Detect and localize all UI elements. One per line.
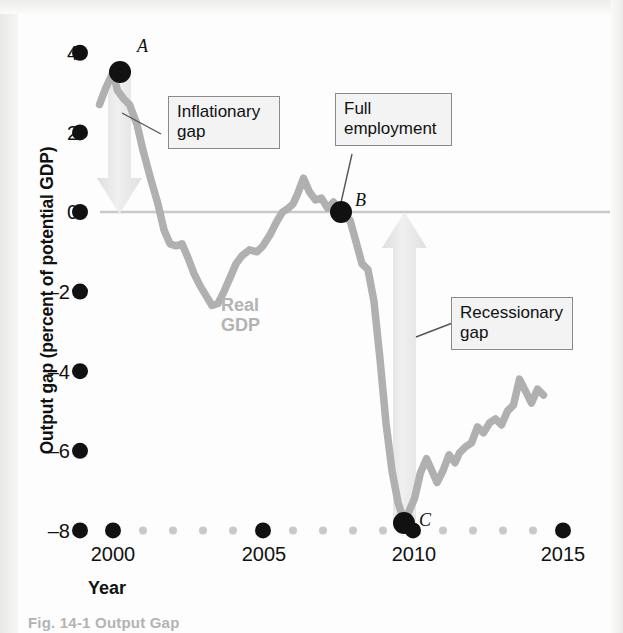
y-tick-dot [72, 443, 88, 459]
callout-full-employment-line2: employment [344, 119, 444, 139]
series-label-line1: Real [221, 295, 260, 315]
y-tick-label-neg8: –8 [30, 520, 70, 543]
callout-inflationary-gap-line1: Inflationary [177, 102, 272, 122]
callout-full-employment[interactable]: Full employment [335, 93, 452, 146]
full-employment-leader-line [340, 154, 352, 207]
x-tick-dot-minor [199, 526, 207, 534]
x-tick-dot-minor [229, 526, 237, 534]
x-tick-dot-major [555, 522, 571, 538]
callout-recessionary-gap-line2: gap [460, 323, 565, 343]
y-tick-label-neg2: –2 [30, 281, 70, 304]
recessionary-gap-leader-line [416, 322, 455, 337]
data-point-c-marker[interactable] [393, 512, 415, 534]
y-tick-dot [72, 284, 88, 300]
data-point-a-marker[interactable] [109, 61, 131, 83]
callout-recessionary-gap-line1: Recessionary [460, 303, 565, 323]
x-tick-dot-minor [439, 526, 447, 534]
data-point-c-label: C [419, 510, 431, 531]
callout-inflationary-gap-line2: gap [177, 122, 272, 142]
x-tick-label-2005: 2005 [224, 543, 304, 566]
x-tick-dot-minor [529, 526, 537, 534]
x-tick-label-2000: 2000 [73, 543, 153, 566]
x-axis-title: Year [88, 578, 126, 599]
x-tick-dot-minor [349, 526, 357, 534]
data-point-b-marker[interactable] [330, 201, 352, 223]
y-axis-tick-marks [72, 45, 88, 539]
callout-full-employment-line1: Full [344, 99, 444, 119]
callout-recessionary-gap[interactable]: Recessionary gap [451, 297, 573, 350]
x-tick-dot-minor [379, 526, 387, 534]
y-tick-label-neg6: –6 [30, 440, 70, 463]
y-tick-label-4: 4 [38, 42, 78, 65]
series-label-real-gdp: Real GDP [221, 295, 260, 335]
x-tick-dot-minor [139, 526, 147, 534]
x-tick-dot-major [255, 522, 271, 538]
x-tick-dot-major [105, 522, 121, 538]
x-tick-dot-minor [499, 526, 507, 534]
x-tick-dot-minor [319, 526, 327, 534]
x-tick-dot-minor [469, 526, 477, 534]
y-tick-label-neg4: –4 [30, 361, 70, 384]
y-tick-label-0: 0 [38, 201, 78, 224]
figure-container: Output gap (percent of potential GDP) 4 … [0, 0, 623, 633]
series-label-line2: GDP [221, 315, 260, 335]
y-tick-dot [72, 522, 88, 538]
callout-inflationary-gap[interactable]: Inflationary gap [168, 96, 280, 149]
data-point-b-label: B [355, 190, 366, 211]
x-tick-label-2015: 2015 [523, 543, 603, 566]
y-tick-dot [72, 363, 88, 379]
y-tick-label-2: 2 [38, 122, 78, 145]
x-tick-dot-minor [169, 526, 177, 534]
x-axis-tick-marks [105, 522, 571, 538]
data-point-a-label: A [137, 36, 148, 57]
x-tick-dot-minor [289, 526, 297, 534]
figure-caption-fragment: Fig. 14-1 Output Gap [28, 614, 180, 631]
x-tick-label-2010: 2010 [374, 543, 454, 566]
